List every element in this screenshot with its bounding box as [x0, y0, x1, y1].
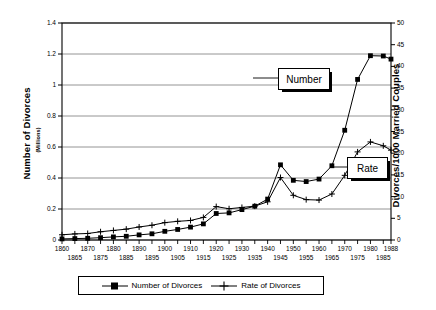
x-axis-tick-label: 1960	[305, 245, 333, 252]
legend-label-rate: Rate of Divorces	[241, 281, 300, 290]
legend-marker-square-icon	[102, 281, 128, 291]
y-axis-right-tick-label: 15	[397, 171, 419, 178]
annotation-callout-number: Number	[278, 68, 328, 88]
x-axis-tick-label: 1940	[254, 245, 282, 252]
x-axis-tick-label: 1950	[279, 245, 307, 252]
y-axis-left-tick-label: 0.6	[22, 143, 56, 150]
divorce-statistics-chart: Number of Divorces (Millions) Divorces/1…	[0, 0, 436, 310]
plot-area	[0, 0, 436, 310]
y-axis-right-tick-label: 40	[397, 62, 419, 69]
y-axis-right-tick-label: 30	[397, 106, 419, 113]
x-axis-tick-label: 1975	[344, 254, 372, 261]
callout-number-label: Number	[278, 68, 330, 90]
y-axis-left-tick-label: 0.2	[22, 205, 56, 212]
y-axis-right-tick-label: 25	[397, 128, 419, 135]
x-axis-tick-label: 1988	[377, 245, 405, 252]
y-axis-left-tick-label: 0	[22, 236, 56, 243]
x-axis-tick-label: 1925	[215, 254, 243, 261]
x-axis-tick-label: 1905	[164, 254, 192, 261]
y-axis-right-tick-label: 0	[397, 236, 419, 243]
y-axis-right-tick-label: 10	[397, 193, 419, 200]
x-axis-tick-label: 1860	[48, 245, 76, 252]
y-axis-right-tick-label: 45	[397, 41, 419, 48]
series-rate-of-divorces	[59, 139, 394, 238]
legend-label-number: Number of Divorces	[132, 281, 203, 290]
legend-marker-plus-icon	[211, 281, 237, 291]
chart-legend: Number of Divorces Rate of Divorces	[78, 276, 324, 295]
y-axis-left-tick-label: 1	[22, 81, 56, 88]
x-axis-tick-label: 1900	[151, 245, 179, 252]
y-axis-left-tick-label: 1.2	[22, 50, 56, 57]
y-axis-left-tick-label: 0.8	[22, 112, 56, 119]
x-axis-tick-label: 1970	[331, 245, 359, 252]
x-axis-tick-label: 1955	[292, 254, 320, 261]
x-axis-tick-label: 1910	[177, 245, 205, 252]
x-axis-tick-label: 1885	[112, 254, 140, 261]
x-axis-tick-label: 1865	[61, 254, 89, 261]
x-axis-tick-label: 1890	[125, 245, 153, 252]
y-axis-left-tick-label: 0.4	[22, 174, 56, 181]
x-axis-tick-label: 1930	[228, 245, 256, 252]
x-axis-tick-label: 1945	[266, 254, 294, 261]
legend-item-number: Number of Divorces	[102, 281, 203, 291]
x-axis-tick-label: 1920	[202, 245, 230, 252]
plot-frame	[62, 23, 391, 240]
y-axis-right-tick-label: 35	[397, 84, 419, 91]
x-axis-tick-label: 1935	[241, 254, 269, 261]
y-axis-right-tick-label: 5	[397, 214, 419, 221]
y-axis-left-tick-label: 1.4	[22, 19, 56, 26]
legend-item-rate: Rate of Divorces	[211, 281, 300, 291]
x-axis-tick-label: 1915	[189, 254, 217, 261]
x-axis-tick-label: 1870	[74, 245, 102, 252]
x-axis-tick-label: 1895	[138, 254, 166, 261]
x-axis-tick-label: 1965	[318, 254, 346, 261]
y-axis-right-tick-label: 50	[397, 19, 419, 26]
annotation-callout-rate: Rate	[347, 157, 386, 177]
x-axis-tick-label: 1880	[99, 245, 127, 252]
x-axis-tick-label: 1875	[87, 254, 115, 261]
y-axis-right-tick-label: 20	[397, 149, 419, 156]
x-axis-tick-label: 1985	[369, 254, 397, 261]
callout-rate-label: Rate	[347, 157, 388, 179]
